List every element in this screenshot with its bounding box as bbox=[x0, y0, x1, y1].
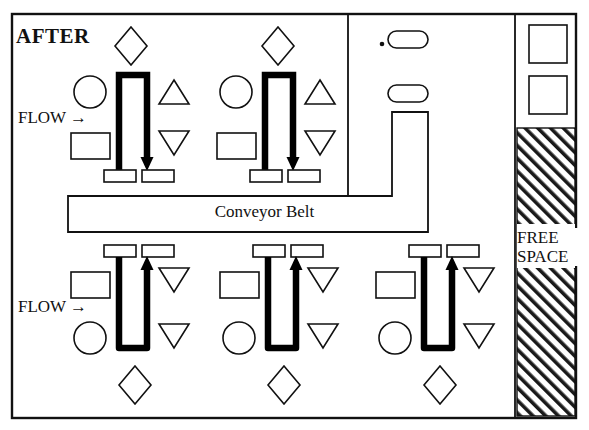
circle-icon bbox=[74, 322, 106, 354]
rectangle-icon bbox=[220, 272, 259, 298]
station-pad-left bbox=[250, 170, 282, 182]
machine-path-up bbox=[119, 257, 147, 348]
triangle-up-icon bbox=[159, 80, 189, 104]
free-space-hatch-region bbox=[517, 128, 575, 416]
triangle-down-icon-lower bbox=[308, 324, 338, 348]
station-pad-right bbox=[288, 170, 320, 182]
circle-icon bbox=[223, 322, 255, 354]
pill-shape-top bbox=[388, 31, 428, 48]
diamond-icon bbox=[268, 366, 300, 404]
flow-arrowhead-up bbox=[290, 256, 303, 270]
triangle-down-icon-upper bbox=[159, 268, 189, 292]
diamond-icon bbox=[119, 366, 151, 404]
flow-arrowhead-up bbox=[446, 256, 459, 270]
page-title: AFTER bbox=[16, 24, 90, 49]
rectangle-icon bbox=[217, 133, 256, 159]
diamond-icon bbox=[115, 27, 147, 65]
triangle-up-icon bbox=[305, 80, 335, 104]
station-pad-right bbox=[291, 245, 323, 257]
station-pad-left bbox=[409, 245, 441, 257]
triangle-down-icon-upper bbox=[308, 268, 338, 292]
workcell-top-2 bbox=[217, 27, 335, 182]
machine-path-down bbox=[119, 75, 147, 170]
triangle-down-icon-lower bbox=[159, 324, 189, 348]
conveyor-belt-label-text: Conveyor Belt bbox=[215, 202, 315, 221]
triangle-down-icon bbox=[305, 131, 335, 155]
square-station-top bbox=[529, 25, 567, 63]
circle-icon bbox=[379, 322, 411, 354]
rectangle-icon bbox=[71, 133, 110, 159]
conveyor-belt-label: Conveyor Belt bbox=[0, 202, 589, 222]
rectangle-icon bbox=[376, 272, 415, 298]
triangle-down-icon bbox=[159, 131, 189, 155]
station-pad-right bbox=[142, 245, 174, 257]
machine-path-up bbox=[268, 257, 296, 348]
circle-icon bbox=[74, 76, 106, 108]
workcell-bottom-1 bbox=[71, 245, 189, 404]
diamond-icon bbox=[424, 366, 456, 404]
circle-icon bbox=[220, 76, 252, 108]
flow-arrowhead-up bbox=[141, 256, 154, 270]
flow-arrowhead-down bbox=[141, 157, 154, 171]
free-space-label: FREE SPACE bbox=[517, 228, 585, 266]
workcell-bottom-3 bbox=[376, 245, 494, 404]
square-station-bottom bbox=[529, 76, 567, 114]
machine-path-up bbox=[424, 257, 452, 348]
free-space-line-2: SPACE bbox=[517, 247, 585, 266]
machine-path-down bbox=[265, 75, 293, 170]
triangle-down-icon-lower bbox=[464, 324, 494, 348]
workcell-top-1 bbox=[71, 27, 189, 182]
diagram-canvas: AFTER FLOW → FLOW → Conveyor Belt FREE S… bbox=[0, 0, 589, 430]
station-pad-right bbox=[142, 170, 174, 182]
pill-shape-bottom bbox=[388, 85, 428, 102]
triangle-down-icon-upper bbox=[464, 268, 494, 292]
station-pad-right bbox=[447, 245, 479, 257]
station-pad-left bbox=[104, 245, 136, 257]
station-pad-left bbox=[253, 245, 285, 257]
rectangle-icon bbox=[71, 272, 110, 298]
free-space-line-1: FREE bbox=[517, 228, 559, 247]
diamond-icon bbox=[262, 27, 294, 65]
station-pad-left bbox=[104, 170, 136, 182]
small-dot bbox=[380, 42, 385, 47]
workcell-bottom-2 bbox=[220, 245, 338, 404]
flow-arrowhead-down bbox=[287, 157, 300, 171]
flow-label-top: FLOW → bbox=[18, 108, 87, 128]
flow-label-bottom: FLOW → bbox=[18, 297, 87, 317]
